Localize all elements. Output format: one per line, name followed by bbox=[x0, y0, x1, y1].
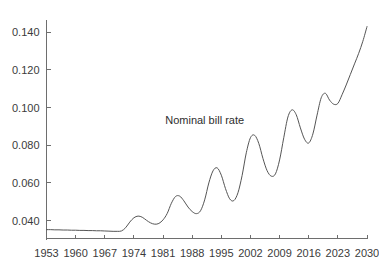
x-axis-tick-label: 2030 bbox=[355, 248, 379, 259]
x-axis-tick-label: 2009 bbox=[267, 248, 291, 259]
x-axis-tick-label: 1995 bbox=[209, 248, 233, 259]
y-axis-tick-label: 0.100 bbox=[0, 102, 40, 113]
y-axis-tick-label: 0.080 bbox=[0, 140, 40, 151]
x-axis-tick-label: 1967 bbox=[93, 248, 117, 259]
y-axis-tick-label: 0.060 bbox=[0, 177, 40, 188]
x-axis-tick-marks bbox=[47, 235, 368, 239]
x-axis-tick-label: 2023 bbox=[326, 248, 350, 259]
x-axis-tick-label: 1960 bbox=[63, 248, 87, 259]
x-axis-tick-label: 2016 bbox=[296, 248, 320, 259]
y-axis-tick-marks bbox=[47, 32, 51, 220]
x-axis-tick-label: 1953 bbox=[34, 248, 58, 259]
data-line-nominal-bill-rate bbox=[47, 27, 368, 232]
y-axis-tick-label: 0.140 bbox=[0, 27, 40, 38]
x-axis-tick-label: 1988 bbox=[180, 248, 204, 259]
x-axis-tick-label: 1974 bbox=[122, 248, 146, 259]
y-axis-tick-label: 0.120 bbox=[0, 64, 40, 75]
series-annotation-label: Nominal bill rate bbox=[165, 114, 244, 126]
x-axis-tick-label: 1981 bbox=[151, 248, 175, 259]
y-axis-tick-label: 0.040 bbox=[0, 215, 40, 226]
x-axis-tick-label: 2002 bbox=[238, 248, 262, 259]
